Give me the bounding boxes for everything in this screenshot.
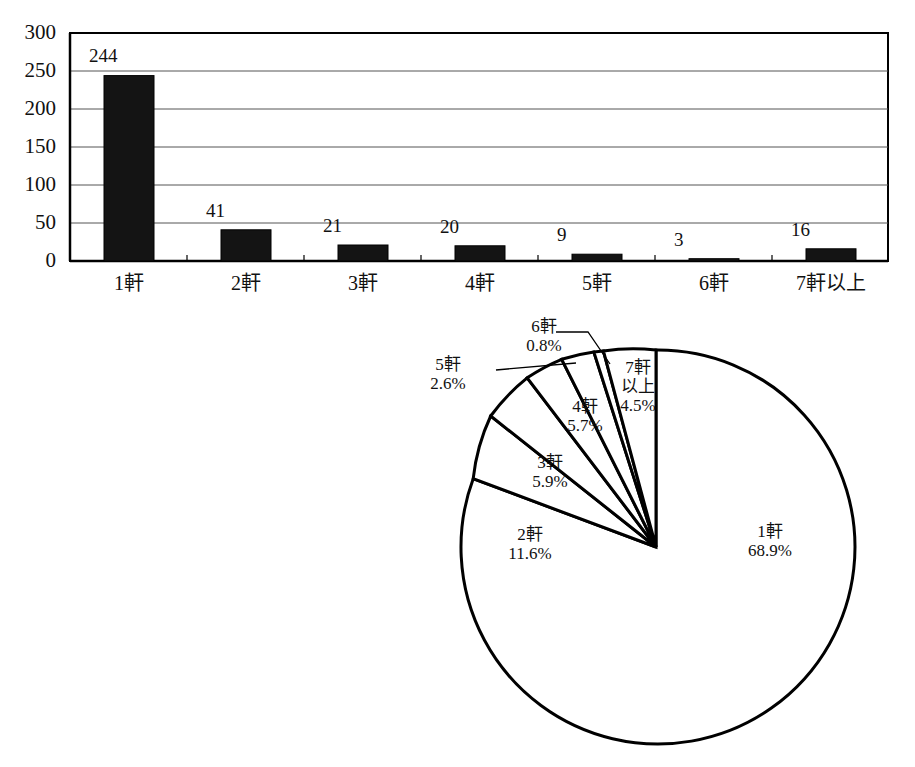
- x-cat-label-4ken: 4軒: [440, 272, 520, 294]
- bar-6ken: [689, 259, 739, 261]
- x-cat-label-6ken: 6軒: [674, 272, 754, 294]
- pie-label-1ken-name: 1軒: [715, 522, 825, 541]
- pie-label-7ken-ijo-name2: 以上: [600, 377, 676, 396]
- bar-chart: 300 250 200 150 100 50 0 244 41 21 20 9 …: [0, 0, 915, 310]
- pie-label-7ken-ijo-percent: 4.5%: [600, 396, 676, 415]
- x-cat-label-1ken: 1軒: [89, 272, 169, 294]
- pie-label-5ken-percent: 2.6%: [400, 374, 496, 393]
- bar-7ken-ijo: [806, 249, 856, 261]
- pie-chart: 1軒 68.9% 2軒 11.6% 3軒 5.9% 4軒 5.7% 5軒 2.6…: [0, 300, 915, 767]
- pie-label-1ken-percent: 68.9%: [715, 541, 825, 560]
- pie-label-3ken-name: 3軒: [495, 453, 605, 472]
- bar-value-label-3ken: 21: [323, 216, 342, 235]
- bar-value-label-2ken: 41: [206, 201, 225, 220]
- bar-3ken: [338, 245, 388, 261]
- pie-label-3ken-percent: 5.9%: [495, 472, 605, 491]
- pie-label-7ken-ijo-name: 7軒: [600, 358, 676, 377]
- pie-label-6ken-name: 6軒: [496, 317, 592, 336]
- bar-2ken: [221, 230, 271, 261]
- y-tick-label-200: 200: [0, 98, 56, 119]
- bar-5ken: [572, 254, 622, 261]
- x-cat-label-7ken-ijo: 7軒以上: [776, 272, 886, 294]
- pie-label-2ken-percent: 11.6%: [475, 544, 585, 563]
- pie-label-7ken-ijo: 7軒 以上 4.5%: [600, 358, 676, 415]
- bar-value-label-4ken: 20: [440, 217, 459, 236]
- bar-1ken: [104, 76, 154, 261]
- bar-value-label-5ken: 9: [557, 225, 567, 244]
- pie-label-5ken: 5軒 2.6%: [400, 355, 496, 393]
- pie-label-2ken-name: 2軒: [475, 525, 585, 544]
- pie-label-1ken: 1軒 68.9%: [715, 522, 825, 560]
- figure-container: 300 250 200 150 100 50 0 244 41 21 20 9 …: [0, 0, 915, 767]
- bar-4ken: [455, 246, 505, 261]
- pie-label-6ken: 6軒 0.8%: [496, 317, 592, 355]
- bar-value-label-7ken-ijo: 16: [791, 220, 810, 239]
- y-tick-label-150: 150: [0, 136, 56, 157]
- x-cat-label-2ken: 2軒: [206, 272, 286, 294]
- y-tick-label-50: 50: [0, 212, 56, 233]
- bar-value-label-1ken: 244: [89, 46, 118, 65]
- pie-label-5ken-name: 5軒: [400, 355, 496, 374]
- y-tick-label-300: 300: [0, 22, 56, 43]
- pie-label-3ken: 3軒 5.9%: [495, 453, 605, 491]
- pie-label-4ken-percent: 5.7%: [530, 416, 640, 435]
- y-tick-label-100: 100: [0, 174, 56, 195]
- bar-chart-canvas: [0, 0, 915, 310]
- y-tick-label-250: 250: [0, 60, 56, 81]
- y-tick-label-0: 0: [0, 250, 56, 271]
- x-cat-label-3ken: 3軒: [323, 272, 403, 294]
- x-cat-label-5ken: 5軒: [557, 272, 637, 294]
- pie-label-2ken: 2軒 11.6%: [475, 525, 585, 563]
- bar-value-label-6ken: 3: [674, 230, 684, 249]
- pie-label-6ken-percent: 0.8%: [496, 336, 592, 355]
